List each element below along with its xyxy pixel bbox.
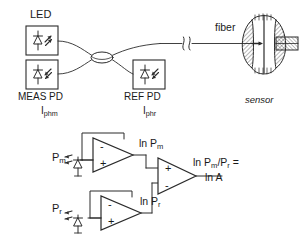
ln-pm-text: ln P (139, 137, 157, 149)
opamp-top-plus-sign: + (100, 157, 106, 169)
meas-pd-label: MEAS PD (18, 92, 63, 102)
sensor-body (242, 14, 298, 74)
meas-photodiode-box (26, 60, 58, 89)
ln-pm-subscript: m (157, 142, 163, 151)
output-expression-line1: ln Pm/Pr = (193, 157, 239, 170)
ref-pd-current-label: Iphr (143, 106, 156, 117)
opamp-top-minus-sign: - (100, 140, 104, 152)
fiber-coupler (91, 52, 113, 63)
photodiode-pm (65, 155, 83, 176)
led-package-box (26, 26, 58, 55)
led-label: LED (30, 9, 51, 20)
figure-canvas: - + - + + - LED fiber sensor MEAS PD REF… (0, 0, 303, 236)
sensor-label: sensor (245, 95, 274, 105)
input-pr-label: Pr (52, 203, 62, 216)
diffamp-minus-sign: - (165, 179, 169, 191)
node-ln-pm-label: ln Pm (139, 138, 163, 151)
node-ln-pr-label: ln Pr (140, 196, 161, 209)
out-equals: = (230, 156, 239, 168)
ref-pd-label: REF PD (124, 92, 161, 102)
ln-pr-text: ln P (140, 195, 158, 207)
pm-subscript: m (59, 156, 66, 165)
opamp-bottom-minus-sign: - (108, 198, 112, 210)
out-ln-p: ln P (193, 156, 211, 168)
fiber-label: fiber (215, 22, 235, 33)
iphm-subscript: phm (44, 109, 58, 118)
opamp-bottom-plus-sign: + (108, 215, 114, 227)
out-slash-p: /P (217, 156, 227, 168)
fiber-break-icon (183, 37, 190, 50)
input-pm-label: Pm (52, 152, 66, 165)
output-expression-line2: ln A (205, 172, 223, 183)
diffamp-plus-sign: + (165, 162, 171, 174)
meas-pd-current-label: Iphm (41, 106, 58, 117)
pr-subscript: r (59, 207, 62, 216)
ref-photodiode-box (133, 60, 165, 89)
photodiode-pr (65, 211, 83, 233)
ln-pr-subscript: r (158, 200, 161, 209)
iphr-subscript: phr (146, 109, 156, 118)
